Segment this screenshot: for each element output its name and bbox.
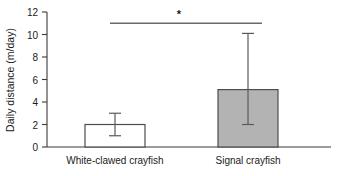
y-tick-label-2: 2 [32,120,38,131]
significance-asterisk: * [177,8,182,20]
y-tick-label-8: 8 [32,52,38,63]
y-tick-label-12: 12 [27,7,39,18]
chart-figure: 12 10 8 6 4 2 0 Daily distance (m/day) * [0,0,338,176]
bar-chart-plot: 12 10 8 6 4 2 0 Daily distance (m/day) * [0,0,338,176]
y-axis-ticks [42,12,47,147]
x-category-label-signal-crayfish: Signal crayfish [215,155,280,166]
x-category-label-white-clawed-crayfish: White-clawed crayfish [66,155,163,166]
y-tick-label-10: 10 [27,30,39,41]
y-tick-label-4: 4 [32,97,38,108]
y-tick-label-6: 6 [32,75,38,86]
y-tick-label-0: 0 [32,142,38,153]
y-axis-title: Daily distance (m/day) [4,28,16,132]
